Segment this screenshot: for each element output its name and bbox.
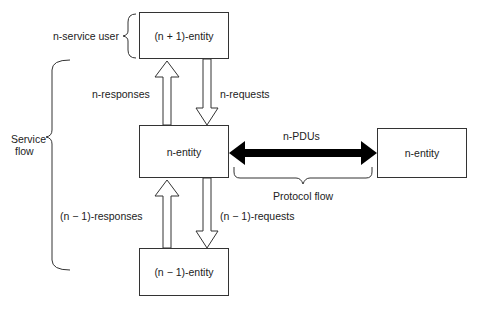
n-plus-1-entity-label: (n + 1)-entity bbox=[154, 30, 213, 42]
service-flow-label-2: flow bbox=[15, 145, 34, 157]
n-entity-box: n-entity bbox=[139, 125, 229, 178]
n-requests-arrow bbox=[196, 59, 218, 125]
n-minus-1-responses-label: (n − 1)-responses bbox=[60, 210, 143, 222]
pdu-double-arrow bbox=[229, 141, 377, 165]
service-flow-brace bbox=[46, 60, 70, 270]
protocol-flow-label: Protocol flow bbox=[273, 190, 333, 202]
n-responses-arrow bbox=[155, 61, 179, 125]
n-plus-1-entity-box: (n + 1)-entity bbox=[139, 12, 229, 59]
n-responses-label: n-responses bbox=[92, 88, 150, 100]
n-minus-1-entity-label: (n − 1)-entity bbox=[154, 266, 213, 278]
service-flow-label-1: Service bbox=[11, 133, 46, 145]
n-minus-1-requests-arrow bbox=[196, 178, 218, 248]
n-minus-1-responses-arrow bbox=[155, 180, 179, 248]
protocol-flow-brace bbox=[234, 167, 372, 184]
peer-n-entity-label: n-entity bbox=[405, 147, 439, 159]
n-minus-1-entity-box: (n − 1)-entity bbox=[139, 248, 229, 296]
service-user-brace bbox=[123, 14, 136, 58]
service-user-label: n-service user bbox=[53, 30, 119, 42]
n-entity-label: n-entity bbox=[167, 146, 201, 158]
pdus-label: n-PDUs bbox=[283, 130, 320, 142]
peer-n-entity-box: n-entity bbox=[377, 128, 467, 178]
osi-layer-diagram: (n + 1)-entity n-entity n-entity (n − 1)… bbox=[0, 0, 478, 311]
n-minus-1-requests-label: (n − 1)-requests bbox=[220, 210, 294, 222]
n-requests-label: n-requests bbox=[220, 88, 270, 100]
